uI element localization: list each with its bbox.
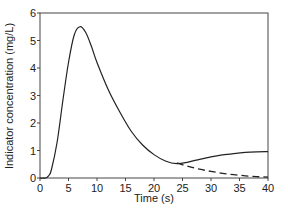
x-tick-label: 15 bbox=[119, 182, 131, 194]
y-axis-label: Indicator concentration (mg/L) bbox=[3, 23, 15, 169]
y-tick-label: 5 bbox=[30, 35, 36, 47]
y-tick-label: 4 bbox=[30, 62, 36, 74]
y-tick-label: 3 bbox=[30, 90, 36, 102]
x-axis-label: Time (s) bbox=[134, 192, 174, 204]
x-tick-label: 25 bbox=[176, 182, 188, 194]
x-tick-label: 5 bbox=[65, 182, 71, 194]
y-tick-label: 6 bbox=[30, 7, 36, 19]
x-tick-label: 0 bbox=[37, 182, 43, 194]
y-tick-label: 1 bbox=[30, 145, 36, 157]
x-tick-label: 35 bbox=[233, 182, 245, 194]
concentration-curve bbox=[40, 27, 268, 178]
extrapolated-curve bbox=[177, 163, 268, 177]
x-tick-label: 30 bbox=[205, 182, 217, 194]
x-tick-label: 10 bbox=[91, 182, 103, 194]
y-tick-label: 2 bbox=[30, 117, 36, 129]
x-tick-label: 40 bbox=[262, 182, 274, 194]
data-series bbox=[40, 27, 268, 178]
y-tick-label: 0 bbox=[30, 172, 36, 184]
indicator-dilution-chart: 0123456 0510152025303540 Time (s) Indica… bbox=[0, 0, 288, 221]
y-axis-ticks: 0123456 bbox=[30, 7, 40, 184]
